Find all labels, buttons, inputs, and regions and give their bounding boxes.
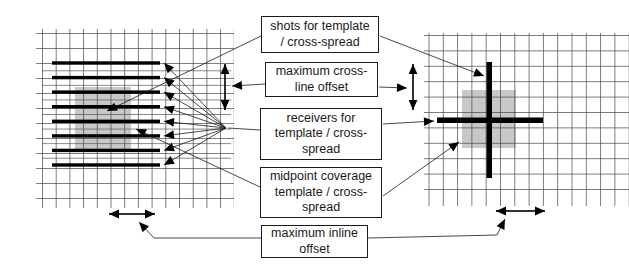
label-receivers-line3: spread: [302, 142, 340, 158]
label-maximum-crossline-offset: maximum cross- line offset: [265, 62, 378, 97]
crossline-arrow-left: [232, 84, 265, 86]
label-midpoint-line1: midpoint coverage: [270, 169, 372, 185]
inline-arrow-left: [139, 222, 261, 238]
label-receivers-line1: receivers for: [287, 111, 356, 127]
label-midpoint-line3: spread: [302, 200, 340, 216]
crossline-arrow-right: [379, 87, 407, 88]
label-shots-line1: shots for template: [270, 19, 369, 35]
label-crossline-line1: maximum cross-: [276, 64, 368, 80]
inline-arrow-right: [368, 219, 505, 238]
label-receivers: receivers for template / cross- spread: [260, 108, 382, 160]
label-shots: shots for template / cross-spread: [261, 16, 379, 53]
label-inline-line2: offset: [299, 242, 329, 258]
label-inline-line1: maximum inline: [271, 226, 358, 242]
left-template-grid: [36, 29, 234, 208]
receiver-line-right: [437, 118, 543, 124]
survey-geometry-figure: shots for template / cross-spread maximu…: [0, 0, 629, 273]
label-maximum-inline-offset: maximum inline offset: [261, 225, 368, 258]
label-midpoint-coverage: midpoint coverage template / cross- spre…: [260, 167, 382, 218]
label-midpoint-line2: template / cross-: [275, 185, 367, 201]
label-shots-line2: / cross-spread: [280, 35, 359, 51]
label-receivers-line2: template / cross-: [275, 126, 367, 142]
label-crossline-line2: line offset: [295, 80, 348, 96]
